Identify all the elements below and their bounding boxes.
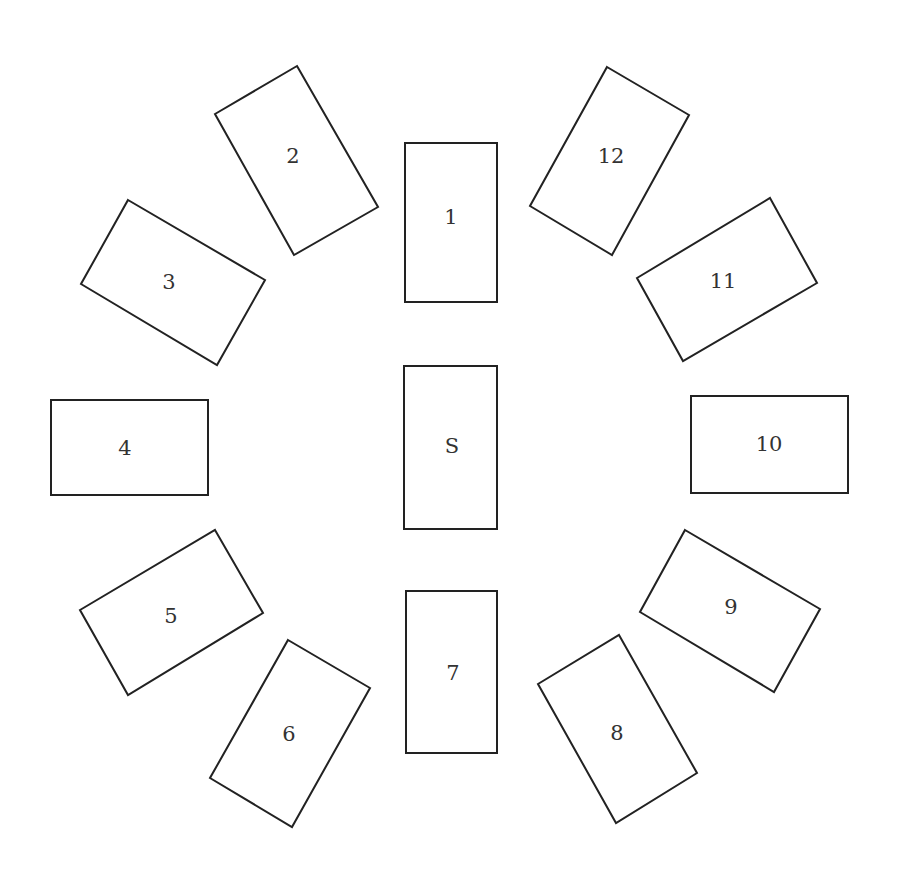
card-label: 7 [446, 661, 459, 685]
card-label: 12 [598, 144, 625, 168]
card-position-9: 9 [640, 530, 820, 692]
card-label: 9 [724, 595, 737, 619]
card-position-12: 12 [530, 67, 689, 255]
card-label: 2 [286, 144, 299, 168]
card-label: 11 [710, 269, 737, 293]
card-label: 6 [282, 722, 295, 746]
card-position-11: 11 [637, 198, 817, 361]
cards-layer: 123456789101112S [51, 66, 848, 827]
card-spread-diagram: 123456789101112S [0, 0, 898, 874]
card-label: 4 [118, 436, 131, 460]
card-label: S [445, 434, 459, 458]
card-position-6: 6 [210, 640, 370, 827]
card-label: 5 [164, 604, 177, 628]
card-label: 3 [162, 270, 175, 294]
card-position-s: S [404, 366, 497, 529]
card-position-5: 5 [80, 530, 263, 695]
card-position-8: 8 [538, 635, 697, 823]
card-position-4: 4 [51, 400, 208, 495]
card-position-1: 1 [405, 143, 497, 302]
card-position-3: 3 [81, 200, 265, 365]
card-label: 8 [610, 721, 623, 745]
card-label: 1 [444, 205, 457, 229]
card-position-10: 10 [691, 396, 848, 493]
card-position-7: 7 [406, 591, 497, 753]
card-position-2: 2 [215, 66, 378, 255]
card-label: 10 [756, 432, 783, 456]
